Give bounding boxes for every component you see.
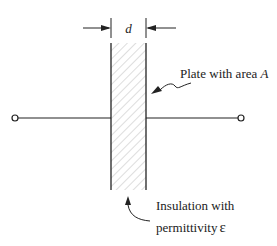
dimension-label: d — [125, 21, 132, 36]
capacitor-diagram: d Plate with area A Insulation with perm… — [0, 0, 277, 246]
leader-arrow-icon — [151, 86, 162, 94]
plate-label: Plate with area — [180, 66, 261, 81]
svg-text:permittivityε: permittivityε — [156, 219, 226, 235]
insulation-line1: Insulation with — [156, 198, 235, 213]
arrow-left-icon — [146, 25, 156, 31]
svg-text:Plate with area A: Plate with area A — [180, 66, 269, 81]
insulation-annotation: Insulation with permittivityε — [125, 196, 235, 235]
insulation-arrow-icon — [125, 196, 131, 205]
plate-annotation: Plate with area A — [151, 66, 269, 94]
insulation-line2: permittivity — [156, 220, 218, 235]
right-terminal-icon — [238, 115, 244, 121]
left-terminal-icon — [12, 115, 18, 121]
dimension-marker: d — [83, 18, 176, 38]
plate-area-var: A — [260, 66, 269, 81]
dielectric-slab — [111, 43, 146, 190]
arrow-right-icon — [101, 25, 111, 31]
permittivity-var: ε — [219, 219, 225, 235]
